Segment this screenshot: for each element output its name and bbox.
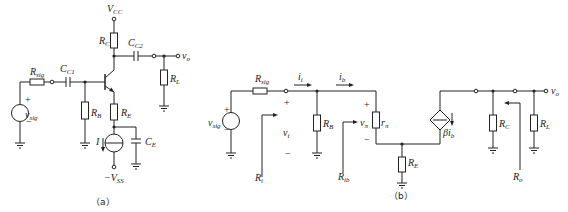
cc1-label: CC1 bbox=[60, 63, 75, 76]
vo-terminal bbox=[544, 89, 548, 93]
ground-icon bbox=[131, 164, 141, 169]
re-label: RE bbox=[120, 107, 132, 120]
rb-resistor bbox=[82, 102, 89, 119]
rl-label: RL bbox=[169, 73, 180, 86]
schematic-canvas: VCC RC CC2 vo RL Rsig CC1 + vsig − RB RE… bbox=[0, 0, 568, 212]
rpi-label: rπ bbox=[381, 117, 389, 130]
vpi-minus: − bbox=[364, 134, 370, 145]
vss-terminal bbox=[112, 165, 116, 169]
rl-label: RL bbox=[539, 118, 550, 131]
circuit-figure: VCC RC CC2 vo RL Rsig CC1 + vsig − RB RE… bbox=[0, 0, 568, 212]
vo-label: vo bbox=[182, 50, 190, 63]
cc2-label: CC2 bbox=[128, 37, 143, 50]
rc-resistor bbox=[490, 115, 497, 131]
vsig-minus: − bbox=[26, 116, 32, 127]
rc-label: RC bbox=[498, 118, 510, 131]
caption-b: （b） bbox=[389, 191, 413, 201]
vi-plus: + bbox=[284, 97, 290, 108]
ground-icon bbox=[15, 143, 25, 148]
ground-icon bbox=[80, 143, 90, 148]
rsig-label: Rsig bbox=[29, 66, 45, 79]
vo-terminal bbox=[176, 54, 180, 58]
caption-a: （a） bbox=[91, 197, 115, 207]
rc-label: RC bbox=[98, 35, 110, 48]
ground-icon bbox=[397, 183, 407, 188]
arrow-down-icon bbox=[450, 121, 454, 126]
ground-icon bbox=[529, 148, 539, 153]
vpi-plus: + bbox=[364, 99, 370, 110]
current-label: I bbox=[95, 136, 100, 147]
vi-minus: − bbox=[285, 148, 291, 159]
vi-label: vi bbox=[283, 127, 289, 140]
ii-label: ii bbox=[298, 71, 303, 84]
rsig-resistor bbox=[30, 79, 44, 85]
vsig-plus: + bbox=[25, 94, 31, 105]
rl-resistor bbox=[531, 115, 538, 131]
ground-icon bbox=[226, 153, 236, 158]
figure-a: VCC RC CC2 vo RL Rsig CC1 + vsig − RB RE… bbox=[12, 3, 191, 207]
vsig-label: vsig bbox=[208, 117, 221, 130]
rc-resistor bbox=[111, 33, 118, 48]
rb-label: RB bbox=[322, 118, 334, 131]
rsig-label: Rsig bbox=[254, 73, 270, 86]
arrow-down-icon bbox=[101, 147, 105, 152]
ri-arrow bbox=[262, 115, 275, 177]
rb-resistor bbox=[314, 115, 321, 131]
vcc-label: VCC bbox=[107, 3, 123, 16]
rl-resistor bbox=[161, 70, 168, 85]
re-resistor bbox=[111, 104, 118, 120]
ce-label: CE bbox=[145, 136, 157, 149]
figure-b: Rsig ii ib + vsig − + vi − RB + vπ − rπ … bbox=[208, 71, 559, 201]
ib-label: ib bbox=[339, 71, 346, 84]
vpi-label: vπ bbox=[360, 117, 368, 130]
ib-arrow-icon bbox=[349, 83, 354, 87]
re-resistor bbox=[399, 157, 406, 172]
npn-transistor bbox=[105, 68, 114, 92]
ro-arrow bbox=[507, 103, 520, 170]
beta-ib-label: βib bbox=[442, 127, 455, 140]
rb-label: RB bbox=[90, 107, 102, 120]
vsig-plus: + bbox=[224, 104, 230, 115]
rpi-resistor bbox=[373, 112, 380, 128]
ground-icon bbox=[159, 106, 169, 111]
ground-icon bbox=[312, 153, 322, 158]
rib-label: Rib bbox=[337, 171, 350, 184]
vss-label: −VSS bbox=[104, 172, 124, 185]
re-label: RE bbox=[407, 157, 419, 170]
vsig-minus: − bbox=[224, 124, 230, 135]
ground-icon bbox=[488, 148, 498, 153]
ii-arrow-icon bbox=[307, 83, 312, 87]
ro-label: Ro bbox=[512, 171, 523, 184]
rsig-resistor bbox=[253, 88, 267, 94]
vo-label: vo bbox=[551, 85, 559, 98]
vcc-terminal bbox=[112, 17, 116, 21]
rib-arrow bbox=[343, 122, 355, 173]
